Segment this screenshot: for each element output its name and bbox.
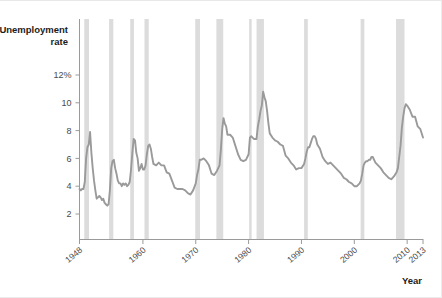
y-axis-title-line1: Unemployment (0, 24, 69, 35)
y-axis-title-line2: rate (51, 36, 68, 47)
recession-band (195, 19, 200, 239)
recession-band (109, 19, 113, 239)
recession-band (84, 19, 89, 239)
y-axis-tick-label: 10 (61, 98, 71, 108)
x-axis-tick-label: 2013 (407, 245, 428, 265)
recession-bands-group (84, 19, 404, 239)
y-axis-tick-label: 8 (66, 126, 71, 136)
x-axis-ticks-group: 19481960197019801990200020102013 (63, 239, 428, 265)
y-axis-ticks-group: 12%108642 (53, 70, 79, 219)
recession-band (396, 19, 404, 239)
x-axis-tick-label: 2000 (338, 245, 359, 265)
x-axis-tick-label: 1990 (285, 245, 306, 265)
x-axis-tick-label: 1960 (127, 245, 148, 265)
recession-band (145, 19, 149, 239)
recession-band (130, 19, 134, 239)
unemployment-rate-line-chart: 12%108642 194819601970198019902000201020… (0, 1, 442, 298)
chart-figure: 12%108642 194819601970198019902000201020… (0, 0, 442, 298)
y-axis-tick-label: 2 (66, 209, 71, 219)
y-axis-tick-label: 12% (53, 70, 71, 80)
x-axis-tick-label: 1948 (63, 245, 84, 265)
y-axis-tick-label: 6 (66, 154, 71, 164)
y-axis-tick-label: 4 (66, 181, 71, 191)
recession-band (304, 19, 308, 239)
recession-band (361, 19, 365, 239)
x-axis-title: Year (402, 275, 422, 286)
recession-band (249, 19, 252, 239)
x-axis-tick-label: 1970 (179, 245, 200, 265)
x-axis-tick-label: 1980 (232, 245, 253, 265)
